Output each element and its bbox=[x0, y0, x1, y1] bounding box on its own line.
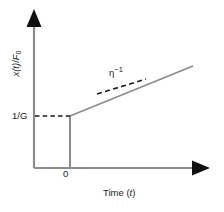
x-axis-arrow-icon bbox=[192, 161, 210, 176]
y-axis-label: x(t)/F0 bbox=[11, 34, 22, 94]
y-tick-label-one-over-g: 1/G bbox=[12, 111, 27, 121]
x-axis-label-close-paren: ) bbox=[132, 187, 135, 198]
y-axis-label-denominator-subscript: 0 bbox=[15, 50, 22, 54]
y-axis-label-numerator: x(t) bbox=[10, 63, 21, 77]
y-axis-arrow-icon bbox=[27, 9, 42, 27]
slope-annotation-exponent: −1 bbox=[114, 65, 123, 74]
y-axis-label-slash: / bbox=[10, 60, 21, 63]
x-axis-label: Time (t) bbox=[103, 188, 135, 198]
x-axis-label-word: Time bbox=[103, 187, 124, 198]
curve-viscous-flow bbox=[70, 66, 193, 116]
creep-compliance-chart: x(t)/F0 1/G 0 Time (t) η−1 bbox=[0, 0, 224, 212]
chart-canvas bbox=[0, 0, 224, 212]
x-tick-label-zero: 0 bbox=[63, 169, 68, 179]
slope-indicator-line bbox=[97, 79, 146, 94]
slope-annotation-eta-inverse: η−1 bbox=[109, 66, 123, 78]
y-axis-label-denominator: F bbox=[10, 54, 21, 60]
